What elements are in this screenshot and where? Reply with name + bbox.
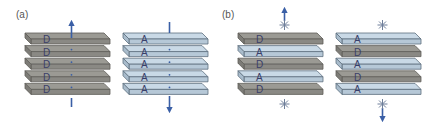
panel-b-label: (b) — [222, 9, 234, 20]
donor-layer: D — [25, 71, 110, 83]
layer-label: A — [141, 34, 148, 45]
dipole-dot — [71, 49, 73, 51]
acceptor-layer: A — [123, 83, 208, 95]
layer-label: A — [354, 59, 361, 70]
panel-a-stack-2: AAAAA — [123, 22, 208, 110]
dipole-dot — [71, 61, 73, 63]
layer-label: A — [141, 72, 148, 83]
stacked-layers-diagram: (a) (b) DDDDDAAAAADADADADADA — [0, 0, 436, 128]
layer-label: A — [256, 72, 263, 83]
layer-label: D — [43, 47, 50, 58]
layer-label: D — [256, 84, 263, 95]
layer-label: D — [354, 47, 361, 58]
donor-layer: D — [336, 71, 421, 83]
layer-label: D — [43, 72, 50, 83]
dipole-dot — [71, 74, 73, 76]
acceptor-layer: A — [238, 46, 323, 58]
layer-label: A — [141, 47, 148, 58]
donor-layer: D — [25, 83, 110, 95]
layer-label: A — [256, 47, 263, 58]
panel-a-label: (a) — [16, 9, 28, 20]
panel-a-stack-1: DDDDD — [25, 23, 110, 107]
excitation-star-icon — [378, 99, 388, 109]
acceptor-layer: A — [336, 58, 421, 70]
layer-label: A — [354, 34, 361, 45]
panel-b-stack-2: ADADA — [336, 33, 421, 119]
layer-label: A — [354, 84, 361, 95]
panel-b-stack-1: DADAD — [238, 10, 323, 95]
excitation-star-icon — [378, 20, 388, 30]
dipole-dot — [169, 74, 171, 76]
donor-layer: D — [238, 83, 323, 95]
excitation-star-icon — [280, 99, 290, 109]
dipole-dot — [169, 87, 171, 89]
layer-label: D — [354, 72, 361, 83]
donor-layer: D — [238, 33, 323, 45]
layer-label: D — [43, 34, 50, 45]
acceptor-layer: A — [123, 46, 208, 58]
dipole-dot — [169, 49, 171, 51]
acceptor-layer: A — [123, 33, 208, 45]
donor-layer: D — [25, 33, 110, 45]
dipole-dot — [71, 87, 73, 89]
layer-label: A — [141, 84, 148, 95]
donor-layer: D — [25, 46, 110, 58]
donor-layer: D — [336, 46, 421, 58]
acceptor-layer: A — [238, 71, 323, 83]
dipole-dot — [169, 61, 171, 63]
acceptor-layer: A — [123, 58, 208, 70]
layer-label: D — [256, 34, 263, 45]
layer-label: D — [43, 59, 50, 70]
acceptor-layer: A — [123, 71, 208, 83]
layer-label: D — [256, 59, 263, 70]
donor-layer: D — [238, 58, 323, 70]
excitation-star-icon — [280, 20, 290, 30]
acceptor-layer: A — [336, 83, 421, 95]
acceptor-layer: A — [336, 33, 421, 45]
layer-label: A — [141, 59, 148, 70]
donor-layer: D — [25, 58, 110, 70]
layer-label: D — [43, 84, 50, 95]
